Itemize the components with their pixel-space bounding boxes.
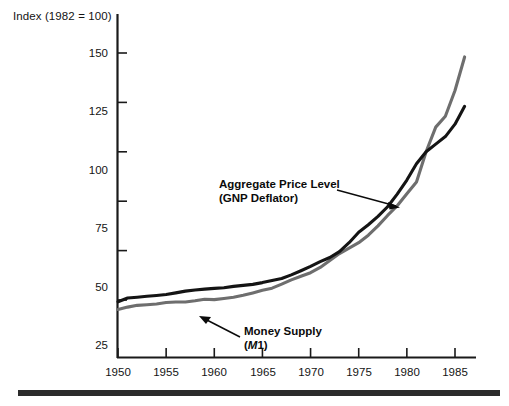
annotation-price-level-line2: (GNP Deflator) [219, 192, 298, 204]
x-tick-label-1980: 1980 [387, 366, 427, 378]
chart-figure: Index (1982 = 100) 150 125 100 75 50 25 … [0, 0, 509, 406]
x-tick-label-1965: 1965 [243, 366, 283, 378]
x-tick-label-1955: 1955 [146, 366, 186, 378]
x-tick-label-1950: 1950 [98, 366, 138, 378]
annotation-price-level-line1: Aggregate Price Level [219, 178, 340, 190]
bottom-rule [18, 390, 500, 396]
x-tick-label-1960: 1960 [194, 366, 234, 378]
price-annotation-arrow [337, 190, 400, 210]
x-tick-label-1970: 1970 [291, 366, 331, 378]
y-tick-label-25: 25 [74, 339, 108, 351]
y-tick-label-125: 125 [74, 105, 108, 117]
annotation-money-supply-line2: (M1) [244, 339, 268, 351]
annotation-price-level: Aggregate Price Level (GNP Deflator) [219, 178, 340, 205]
y-tick-label-100: 100 [74, 164, 108, 176]
x-tick-label-1985: 1985 [435, 366, 475, 378]
y-tick-label-50: 50 [74, 281, 108, 293]
y-axis-title: Index (1982 = 100) [13, 10, 112, 22]
y-tick-marks [118, 53, 127, 300]
annotation-money-supply-line1: Money Supply [244, 325, 322, 337]
y-tick-label-75: 75 [74, 222, 108, 234]
annotation-money-supply: Money Supply (M1) [244, 325, 322, 352]
x-tick-label-1975: 1975 [339, 366, 379, 378]
money-annotation-arrow [199, 316, 240, 337]
y-tick-label-150: 150 [74, 47, 108, 59]
